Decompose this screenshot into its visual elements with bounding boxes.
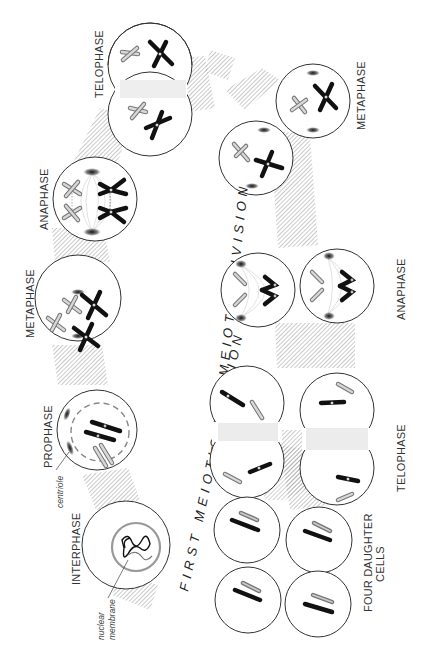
- anaphase-2-label: ANAPHASE: [395, 258, 407, 320]
- meiosis-diagram: nuclear membrane INTERPHASE centriole PR…: [0, 0, 423, 660]
- metaphase-1-cell: [35, 255, 121, 350]
- metaphase-2-label: METAPHASE: [355, 61, 367, 130]
- anaphase-2-cells: [221, 249, 374, 327]
- interphase-cell: [82, 501, 170, 589]
- telophase-1-cells: [108, 23, 192, 156]
- telophase-1-label: TELOPHASE: [93, 30, 105, 98]
- four-daughter-label-line1: FOUR DAUGHTER: [362, 513, 374, 612]
- nuclear-label: nuclear: [96, 611, 106, 640]
- metaphase-1-label: METAPHASE: [24, 269, 36, 338]
- interphase-label: INTERPHASE: [70, 513, 82, 585]
- centriole-leader: [56, 452, 69, 470]
- prophase-label: PROPHASE: [42, 405, 54, 468]
- prophase-cell: [57, 390, 137, 470]
- anaphase-1-label: ANAPHASE: [38, 168, 50, 230]
- four-daughter-label-line2: CELLS: [374, 546, 386, 582]
- telophase-2-label: TELOPHASE: [395, 424, 407, 492]
- four-daughter-cells: [214, 497, 352, 637]
- centriole-label: centriole: [55, 476, 65, 508]
- membrane-label: membrane: [107, 599, 117, 640]
- anaphase-1-cell: [53, 157, 137, 241]
